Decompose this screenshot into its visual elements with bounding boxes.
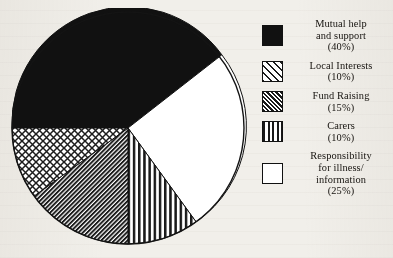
legend-label-line1: Carers xyxy=(292,120,390,132)
legend-item-carers: Carers (10%) xyxy=(262,120,390,143)
legend-item-text: Carers (10%) xyxy=(292,120,390,143)
legend-label-line2: and support xyxy=(292,30,390,42)
legend-label-line1: Local Interests xyxy=(292,60,390,72)
legend-item-text: Mutual help and support (40%) xyxy=(292,18,390,53)
legend-label-line1: Responsibility xyxy=(292,150,390,162)
legend-value: (15%) xyxy=(292,102,390,114)
legend-value: (25%) xyxy=(292,185,390,197)
pie-chart-figure: Mutual help and support (40%) Local Inte… xyxy=(0,0,393,258)
legend-value: (10%) xyxy=(292,71,390,83)
crosshatch-swatch xyxy=(262,61,283,82)
pie-chart xyxy=(8,8,248,248)
legend-label-line3: information xyxy=(292,174,390,186)
legend-label-line1: Fund Raising xyxy=(292,90,390,102)
diagonal-hatch-swatch xyxy=(262,91,283,112)
legend-item-responsibility: Responsibility for illness/ information … xyxy=(262,150,390,196)
legend-item-mutual-help: Mutual help and support (40%) xyxy=(262,18,390,53)
solid-white-swatch xyxy=(262,163,283,184)
legend-item-fund-raising: Fund Raising (15%) xyxy=(262,90,390,113)
legend-item-local-interests: Local Interests (10%) xyxy=(262,60,390,83)
legend-label-line1: Mutual help xyxy=(292,18,390,30)
legend-item-text: Fund Raising (15%) xyxy=(292,90,390,113)
solid-black-swatch xyxy=(262,25,283,46)
vertical-stripes-swatch xyxy=(262,121,283,142)
pie-chart-svg xyxy=(8,8,248,248)
legend-item-text: Responsibility for illness/ information … xyxy=(292,150,390,196)
legend-label-line2: for illness/ xyxy=(292,162,390,174)
legend-item-text: Local Interests (10%) xyxy=(292,60,390,83)
legend-value: (40%) xyxy=(292,41,390,53)
legend: Mutual help and support (40%) Local Inte… xyxy=(262,18,390,204)
legend-value: (10%) xyxy=(292,132,390,144)
